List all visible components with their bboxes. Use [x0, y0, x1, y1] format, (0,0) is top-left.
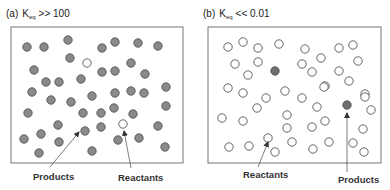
product-molecule	[162, 83, 170, 91]
reactant-molecule	[119, 120, 127, 128]
product-molecule	[129, 110, 137, 118]
product-molecule	[20, 135, 28, 143]
product-molecule	[154, 42, 162, 50]
reactant-molecule	[309, 145, 317, 153]
reactant-molecule	[254, 44, 262, 52]
panel-b: (b)Keq<< 0.01 ReactantsProducts	[203, 8, 381, 185]
product-molecule	[40, 43, 48, 51]
reactant-molecule	[264, 134, 272, 142]
reactant-molecule	[298, 60, 306, 68]
reactant-molecule	[275, 40, 283, 48]
reactant-molecule	[345, 77, 353, 85]
product-molecule	[66, 54, 74, 62]
reactant-molecule	[244, 71, 252, 79]
product-molecule	[81, 127, 89, 135]
reactants-label: Reactants	[243, 169, 288, 180]
product-molecule	[35, 149, 43, 157]
reactant-molecule	[298, 94, 306, 102]
reactant-molecule	[308, 68, 316, 76]
product-molecule	[97, 123, 105, 131]
reactant-molecule	[239, 38, 247, 46]
reactant-molecule	[359, 125, 367, 133]
product-molecule	[114, 136, 122, 144]
reactant-molecule	[225, 143, 233, 151]
reactant-molecule	[281, 87, 289, 95]
reactant-molecule	[245, 142, 253, 150]
reactant-molecule	[218, 114, 226, 122]
panel-b-title: (b)Keq<< 0.01	[203, 8, 270, 20]
product-molecule	[111, 89, 119, 97]
product-molecule	[23, 43, 31, 51]
reactant-molecule	[360, 148, 368, 156]
reactant-molecule	[349, 41, 357, 49]
product-molecule	[47, 96, 55, 104]
reactant-molecule	[321, 117, 329, 125]
reactant-molecule	[283, 124, 291, 132]
reactants-label: Reactants	[118, 172, 163, 183]
product-molecule	[154, 122, 162, 130]
product-molecule	[54, 121, 62, 129]
product-molecule	[98, 68, 106, 76]
reactant-molecule	[349, 139, 357, 147]
product-molecule	[111, 38, 119, 46]
reactant-molecule	[325, 138, 333, 146]
reactant-molecule	[283, 111, 291, 119]
product-molecule	[77, 75, 85, 83]
product-molecule	[161, 143, 169, 151]
reactant-molecule	[301, 45, 309, 53]
product-molecule	[343, 101, 351, 109]
product-molecule	[28, 88, 36, 96]
product-molecule	[135, 134, 143, 142]
product-molecule	[127, 59, 135, 67]
product-molecule	[98, 44, 106, 52]
reactant-molecule	[254, 58, 262, 66]
products-label: Products	[338, 174, 379, 185]
product-molecule	[30, 66, 38, 74]
reactant-molecule	[308, 123, 316, 131]
panel-a: (a)Keq>> 100 ProductsReactants	[6, 8, 183, 183]
reactant-molecule	[224, 43, 232, 51]
reactant-molecule	[239, 117, 247, 125]
product-molecule	[67, 98, 75, 106]
product-molecule	[88, 147, 96, 155]
product-molecule	[110, 104, 118, 112]
product-molecule	[88, 92, 96, 100]
product-molecule	[141, 70, 149, 78]
reactant-molecule	[361, 93, 369, 101]
product-molecule	[271, 67, 279, 75]
product-molecule	[24, 109, 32, 117]
reactant-molecule	[335, 44, 343, 52]
product-molecule	[55, 138, 63, 146]
product-molecule	[55, 78, 63, 86]
reactant-molecule	[320, 83, 328, 91]
reactant-molecule	[354, 57, 362, 65]
reactant-molecule	[83, 59, 91, 67]
reactant-molecule	[239, 89, 247, 97]
product-molecule	[64, 36, 72, 44]
product-molecule	[140, 89, 148, 97]
product-molecule	[134, 39, 142, 47]
reactant-molecule	[367, 106, 375, 114]
reactant-molecule	[288, 138, 296, 146]
reactant-molecule	[317, 54, 325, 62]
equilibrium-diagram: (a)Keq>> 100 ProductsReactants (b)Keq<< …	[0, 0, 390, 190]
panel-a-title: (a)Keq>> 100	[6, 8, 70, 20]
product-molecule	[42, 78, 50, 86]
product-molecule	[162, 102, 170, 110]
reactant-molecule	[335, 67, 343, 75]
reactant-molecule	[271, 148, 279, 156]
product-molecule	[111, 67, 119, 75]
product-molecule	[37, 130, 45, 138]
product-molecule	[79, 109, 87, 117]
reactant-molecule	[224, 84, 232, 92]
products-label: Products	[33, 171, 74, 182]
reactant-molecule	[253, 104, 261, 112]
product-molecule	[127, 87, 135, 95]
reactant-molecule	[262, 94, 270, 102]
product-molecule	[97, 109, 105, 117]
reactant-molecule	[231, 60, 239, 68]
reactant-molecule	[313, 103, 321, 111]
